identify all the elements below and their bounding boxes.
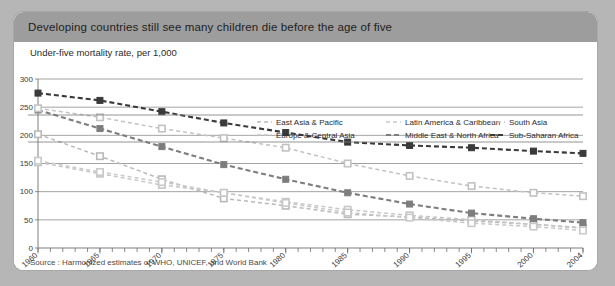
legend-label-1: Europe & Central Asia <box>276 131 355 140</box>
legend-label-0: East Asia & Pacific <box>276 118 343 127</box>
series-marker-5 <box>530 148 536 154</box>
series-marker-4 <box>283 145 289 151</box>
legend-label-5: Sub-Saharan Africa <box>509 131 579 140</box>
series-line-3 <box>38 110 583 223</box>
series-marker-3 <box>97 126 103 132</box>
chart-title-bar: Developing countries still see many chil… <box>14 12 597 42</box>
series-marker-2 <box>97 169 103 175</box>
y-axis-label: 150 <box>20 159 34 168</box>
series-marker-3 <box>580 220 586 226</box>
series-marker-4 <box>468 183 474 189</box>
series-marker-5 <box>35 90 41 96</box>
series-marker-4 <box>344 160 350 166</box>
x-axis-label: 1975 <box>206 250 226 269</box>
chart-svg: 0501001502002503001960196519701975198019… <box>14 42 597 270</box>
chart-card: Developing countries still see many chil… <box>14 12 597 270</box>
series-marker-0 <box>35 131 41 137</box>
x-axis-label: 2004 <box>565 250 585 269</box>
x-axis-label: 1965 <box>82 250 102 269</box>
series-marker-5 <box>580 150 586 156</box>
x-axis-label: 1995 <box>454 250 474 269</box>
x-axis-label: 1990 <box>392 250 412 269</box>
x-axis-label: 1980 <box>268 250 288 269</box>
legend-label-2: Latin America & Caribbean <box>405 118 500 127</box>
series-marker-2 <box>530 223 536 229</box>
series-marker-5 <box>407 142 413 148</box>
series-marker-5 <box>97 97 103 103</box>
y-axis-label: 250 <box>20 103 34 112</box>
series-marker-5 <box>221 120 227 126</box>
legend-label-3: Middle East & North Africa <box>405 131 499 140</box>
series-marker-2 <box>221 190 227 196</box>
series-marker-3 <box>221 162 227 168</box>
y-axis-label: 50 <box>24 216 33 225</box>
y-axis-label: 100 <box>20 187 34 196</box>
x-axis-label: 2000 <box>516 250 536 269</box>
series-marker-3 <box>530 216 536 222</box>
plot-area: 0501001502002503001960196519701975198019… <box>14 42 597 270</box>
series-line-1 <box>38 162 583 228</box>
series-marker-4 <box>159 125 165 131</box>
series-marker-2 <box>35 157 41 163</box>
series-marker-4 <box>406 173 412 179</box>
series-marker-5 <box>159 109 165 115</box>
series-marker-2 <box>283 200 289 206</box>
chart-body: Under-five mortality rate, per 1,000 Sou… <box>14 42 597 270</box>
series-marker-2 <box>580 227 586 233</box>
series-marker-3 <box>283 176 289 182</box>
x-axis-label: 1985 <box>330 250 350 269</box>
series-marker-4 <box>530 190 536 196</box>
series-marker-5 <box>469 145 475 151</box>
series-marker-0 <box>97 153 103 159</box>
series-marker-3 <box>469 210 475 216</box>
series-marker-3 <box>345 190 351 196</box>
series-marker-4 <box>35 105 41 111</box>
series-marker-2 <box>406 214 412 220</box>
legend-label-4: South Asia <box>509 118 548 127</box>
series-marker-4 <box>580 193 586 199</box>
series-marker-3 <box>159 144 165 150</box>
series-marker-2 <box>344 209 350 215</box>
y-axis-label: 200 <box>20 131 34 140</box>
series-line-0 <box>38 134 583 228</box>
x-axis-label: 1970 <box>144 250 164 269</box>
y-axis-label: 300 <box>20 75 34 84</box>
series-marker-4 <box>221 135 227 141</box>
series-marker-3 <box>407 201 413 207</box>
series-marker-2 <box>159 179 165 185</box>
page-title: Developing countries still see many chil… <box>14 21 392 33</box>
x-axis-label: 1960 <box>20 250 40 269</box>
series-marker-2 <box>468 220 474 226</box>
